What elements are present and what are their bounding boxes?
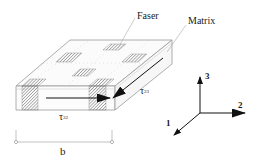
- axis-1-label: 1: [166, 119, 171, 128]
- fiber-section-left: [22, 86, 38, 110]
- tau-23-subscript: 23: [144, 89, 149, 94]
- composite-element-diagram: [0, 0, 254, 161]
- tau-32-label: τ32: [59, 112, 68, 122]
- tau-23-label: τ23: [140, 86, 149, 96]
- matrix-leader-line: [167, 25, 186, 52]
- coordinate-axes: [174, 77, 245, 135]
- dimension-b: [14, 130, 113, 144]
- axis-1-arrow: [174, 113, 200, 135]
- dimension-b-label: b: [60, 146, 66, 157]
- axis-3-label: 3: [205, 72, 210, 81]
- fiber-label: Faser: [137, 11, 159, 21]
- matrix-label: Matrix: [188, 16, 215, 26]
- axis-2-label: 2: [238, 101, 243, 110]
- tau-32-subscript: 32: [63, 115, 68, 120]
